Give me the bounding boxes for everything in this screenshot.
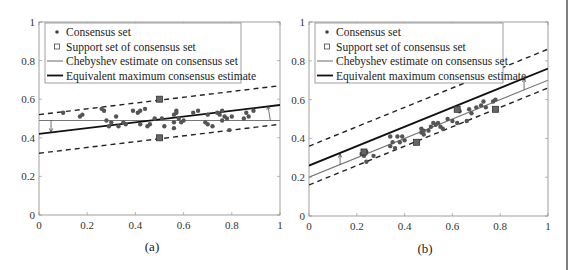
y-tick-label: 0.8 bbox=[21, 55, 35, 67]
y-tick-label: 0.2 bbox=[21, 170, 35, 182]
consensus-point bbox=[61, 111, 65, 115]
consensus-point bbox=[172, 120, 176, 124]
x-tick-label: 0.2 bbox=[350, 220, 364, 232]
consensus-point bbox=[196, 109, 200, 113]
consensus-point bbox=[390, 140, 394, 144]
consensus-point bbox=[388, 134, 392, 138]
dashed-bound-lower bbox=[309, 88, 548, 185]
consensus-point bbox=[116, 124, 120, 128]
consensus-point bbox=[104, 118, 108, 122]
consensus-point bbox=[225, 116, 229, 120]
y-tick-label: 0.2 bbox=[291, 171, 305, 183]
consensus-point bbox=[479, 103, 483, 107]
legend-equivalent: Equivalent maximum consensus estimate bbox=[336, 70, 526, 83]
consensus-point bbox=[422, 128, 426, 132]
y-tick-label: 0.8 bbox=[291, 55, 305, 67]
panel-caption: (b) bbox=[417, 241, 432, 256]
consensus-point bbox=[181, 118, 185, 122]
x-tick-label: 1 bbox=[545, 220, 551, 232]
consensus-point bbox=[206, 112, 210, 116]
legend: Consensus setSupport set of consensus se… bbox=[315, 23, 526, 83]
consensus-point bbox=[177, 116, 181, 120]
consensus-point bbox=[124, 122, 128, 126]
consensus-point bbox=[400, 134, 404, 138]
y-tick-label: 0.6 bbox=[21, 93, 35, 105]
consensus-point bbox=[102, 109, 106, 113]
consensus-point bbox=[191, 111, 195, 115]
consensus-point bbox=[474, 105, 478, 109]
y-tick-label: 0.6 bbox=[291, 94, 305, 106]
consensus-point bbox=[138, 109, 142, 113]
support-point bbox=[157, 135, 163, 141]
consensus-point bbox=[450, 119, 454, 123]
consensus-point bbox=[429, 125, 433, 129]
legend-equivalent: Equivalent maximum consensus estimate bbox=[66, 70, 256, 83]
support-point bbox=[492, 106, 498, 112]
consensus-point bbox=[206, 122, 210, 126]
consensus-point bbox=[152, 116, 156, 120]
consensus-point bbox=[218, 112, 222, 116]
consensus-point bbox=[138, 122, 142, 126]
consensus-point bbox=[162, 124, 166, 128]
x-tick-label: 0.4 bbox=[129, 219, 143, 231]
x-tick-label: 0.8 bbox=[493, 220, 507, 232]
consensus-point bbox=[148, 122, 152, 126]
dot-marker-icon bbox=[55, 30, 59, 34]
consensus-point bbox=[469, 111, 473, 115]
consensus-point bbox=[388, 144, 392, 148]
consensus-point bbox=[160, 116, 164, 120]
consensus-point bbox=[174, 111, 178, 115]
legend: Consensus setSupport set of consensus se… bbox=[45, 23, 256, 83]
consensus-point bbox=[220, 118, 224, 122]
consensus-point bbox=[422, 132, 426, 136]
consensus-point bbox=[465, 119, 469, 123]
consensus-point bbox=[230, 114, 234, 118]
consensus-point bbox=[107, 124, 111, 128]
consensus-point bbox=[441, 127, 445, 131]
support-point bbox=[361, 149, 367, 155]
figure-canvas: 00.20.40.60.8100.20.40.60.81Consensus se… bbox=[0, 0, 575, 270]
x-tick-label: 0.6 bbox=[446, 220, 460, 232]
consensus-point bbox=[371, 154, 375, 158]
consensus-point bbox=[395, 134, 399, 138]
consensus-point bbox=[143, 107, 147, 111]
x-tick-label: 0.2 bbox=[80, 219, 94, 231]
consensus-point bbox=[481, 99, 485, 103]
consensus-point bbox=[251, 109, 255, 113]
legend-consensus-set: Consensus set bbox=[336, 26, 402, 38]
legend-chebyshev: Chebyshev estimate on consensus set bbox=[66, 55, 239, 68]
chart-panel-b: 00.20.40.60.8100.20.40.60.81Consensus se… bbox=[291, 16, 551, 256]
consensus-point bbox=[398, 140, 402, 144]
consensus-point bbox=[467, 107, 471, 111]
chart-panel-a: 00.20.40.60.8100.20.40.60.81Consensus se… bbox=[21, 16, 283, 254]
y-tick-label: 1 bbox=[300, 16, 306, 28]
consensus-point bbox=[227, 128, 231, 132]
panel-caption: (a) bbox=[145, 239, 159, 254]
legend-chebyshev: Chebyshev estimate on consensus set bbox=[336, 55, 509, 68]
x-tick-label: 0.4 bbox=[398, 220, 412, 232]
consensus-point bbox=[246, 114, 250, 118]
consensus-point bbox=[109, 120, 113, 124]
consensus-point bbox=[114, 114, 118, 118]
consensus-point bbox=[172, 126, 176, 130]
consensus-point bbox=[445, 117, 449, 121]
support-point bbox=[157, 96, 163, 102]
consensus-point bbox=[493, 97, 497, 101]
consensus-point bbox=[242, 116, 246, 120]
consensus-point bbox=[220, 109, 224, 113]
support-point bbox=[454, 106, 460, 112]
consensus-point bbox=[210, 124, 214, 128]
support-point bbox=[414, 139, 420, 145]
dot-marker-icon bbox=[325, 30, 329, 34]
consensus-point bbox=[436, 121, 440, 125]
x-tick-label: 0.8 bbox=[225, 219, 239, 231]
y-tick-label: 0 bbox=[300, 210, 306, 222]
x-tick-label: 1 bbox=[277, 219, 283, 231]
x-tick-label: 0 bbox=[36, 219, 42, 231]
y-tick-label: 0 bbox=[30, 209, 36, 221]
consensus-point bbox=[402, 138, 406, 142]
y-tick-label: 0.4 bbox=[291, 132, 305, 144]
legend-consensus-set: Consensus set bbox=[66, 26, 132, 38]
consensus-point bbox=[393, 146, 397, 150]
consensus-point bbox=[364, 159, 368, 163]
